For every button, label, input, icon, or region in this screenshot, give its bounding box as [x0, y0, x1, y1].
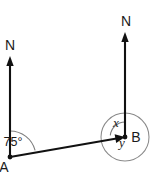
angle-label-y: y [117, 135, 125, 150]
bearings-diagram: N N 75° A x y B [0, 0, 152, 174]
point-label-b: B [131, 129, 140, 145]
north-arrow-icon-right [121, 32, 128, 42]
north-label-right: N [121, 13, 131, 29]
angle-label-x: x [112, 115, 119, 130]
north-arrow-icon-left [6, 56, 13, 66]
bearings-diagram-canvas: N N 75° A x y B [0, 0, 152, 174]
angle-label-at-a: 75° [4, 135, 23, 149]
bearing-line-a-to-b [10, 138, 118, 157]
north-label-left: N [5, 37, 15, 53]
point-label-a: A [0, 159, 9, 174]
